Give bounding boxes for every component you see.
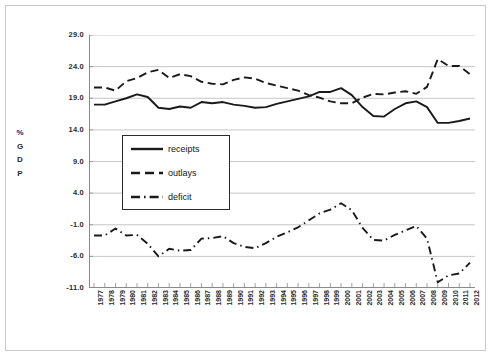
x-axis-tick-label: 1995 xyxy=(290,290,297,330)
x-axis-tick-label: 1989 xyxy=(226,290,233,330)
x-axis-tick-label: 1986 xyxy=(194,290,201,330)
y-axis-tick-label: 19.0 xyxy=(40,94,84,102)
x-axis-tick-label: 1981 xyxy=(140,290,147,330)
y-axis-tick-labels: 29.024.019.014.09.04.0-1.0-6.0-11.0 xyxy=(36,0,84,364)
y-axis-tick-label: -6.0 xyxy=(40,252,84,260)
y-axis-title: % G D P xyxy=(12,126,28,180)
y-axis-tick-label: 9.0 xyxy=(40,158,84,166)
x-axis-tick-label: 2007 xyxy=(419,290,426,330)
legend-swatch-solid-icon xyxy=(130,143,164,155)
x-axis-tick-label: 1979 xyxy=(119,290,126,330)
legend-item-deficit[interactable]: deficit xyxy=(130,190,192,204)
x-axis-tick-label: 2004 xyxy=(387,290,394,330)
x-axis-tick-label: 1984 xyxy=(172,290,179,330)
series-line-outlays xyxy=(94,59,470,103)
y-axis-title-char-0: % xyxy=(12,126,28,140)
y-axis-tick-label: 14.0 xyxy=(40,126,84,134)
x-axis-tick-label: 1980 xyxy=(129,290,136,330)
x-axis-tick-label: 1977 xyxy=(97,290,104,330)
legend-swatch-dashed-icon xyxy=(130,167,164,179)
x-axis-tick-label: 2000 xyxy=(344,290,351,330)
x-axis-tick-label: 1996 xyxy=(301,290,308,330)
chart-legend: receipts outlays deficit xyxy=(122,135,230,210)
y-axis-tick-label: 24.0 xyxy=(40,63,84,71)
y-axis-tick-label: 4.0 xyxy=(40,189,84,197)
x-axis-tick-label: 2003 xyxy=(376,290,383,330)
series-line-deficit xyxy=(94,203,470,282)
x-axis-tick-label: 1987 xyxy=(204,290,211,330)
x-axis-tick-label: 2011 xyxy=(462,290,469,330)
x-axis-tick-label: 2005 xyxy=(398,290,405,330)
x-axis-tick-label: 1994 xyxy=(280,290,287,330)
x-axis-tick-label: 1978 xyxy=(108,290,115,330)
x-axis-tick-label: 1998 xyxy=(323,290,330,330)
x-axis-tick-label: 1983 xyxy=(162,290,169,330)
legend-item-outlays[interactable]: outlays xyxy=(130,166,197,180)
x-axis-tick-label: 1992 xyxy=(258,290,265,330)
x-axis-tick-label: 2006 xyxy=(409,290,416,330)
y-axis-title-char-1: G xyxy=(12,140,28,154)
legend-label-receipts: receipts xyxy=(168,144,200,154)
x-axis-tick-label: 2012 xyxy=(473,290,480,330)
x-axis-tick-label: 1997 xyxy=(312,290,319,330)
y-axis-title-char-3: P xyxy=(12,167,28,181)
legend-label-deficit: deficit xyxy=(168,192,192,202)
x-axis-tick-label: 1988 xyxy=(215,290,222,330)
y-axis-tick-label: -1.0 xyxy=(40,221,84,229)
x-axis-tick-label: 1982 xyxy=(151,290,158,330)
x-axis-tick-label: 2009 xyxy=(441,290,448,330)
x-axis-tick-label: 2002 xyxy=(366,290,373,330)
legend-label-outlays: outlays xyxy=(168,168,197,178)
x-axis-tick-label: 2001 xyxy=(355,290,362,330)
x-axis-tick-label: 1993 xyxy=(269,290,276,330)
x-axis-tick-label: 2010 xyxy=(452,290,459,330)
y-axis-title-char-2: D xyxy=(12,153,28,167)
x-axis-tick-label: 1990 xyxy=(237,290,244,330)
x-axis-tick-label: 1985 xyxy=(183,290,190,330)
x-axis-tick-label: 2008 xyxy=(430,290,437,330)
x-axis-tick-label: 1999 xyxy=(333,290,340,330)
legend-swatch-dashdot-icon xyxy=(130,191,164,203)
x-axis-tick-label: 1991 xyxy=(247,290,254,330)
chart-screenshot: % G D P 29.024.019.014.09.04.0-1.0-6.0-1… xyxy=(0,0,498,364)
y-axis-tick-label: -11.0 xyxy=(40,284,84,292)
y-axis-tick-label: 29.0 xyxy=(40,31,84,39)
x-axis-tick-labels: 1977197819791980198119821983198419851986… xyxy=(89,290,475,340)
legend-item-receipts[interactable]: receipts xyxy=(130,142,200,156)
